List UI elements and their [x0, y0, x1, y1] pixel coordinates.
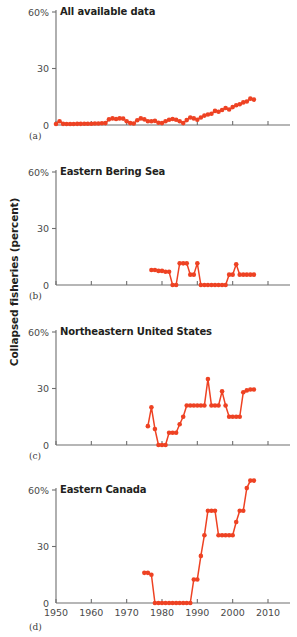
- data-point: [237, 414, 242, 419]
- panel-d: 03060%1950196019701980199020002010: [0, 478, 297, 637]
- data-point: [206, 377, 211, 382]
- y-tick-label: 0: [43, 280, 49, 291]
- data-point: [241, 508, 246, 513]
- data-point: [188, 601, 193, 606]
- data-point: [149, 405, 154, 410]
- figure-collapsed-fisheries: Collapsed fisheries (percent) 03060% 030…: [0, 0, 297, 637]
- data-point: [230, 272, 235, 277]
- series-line-c: [148, 379, 254, 445]
- panel-a: 03060%: [0, 0, 297, 150]
- data-point: [192, 272, 197, 277]
- panel-c: 03060%: [0, 320, 297, 470]
- y-tick-label: 0: [43, 440, 49, 451]
- data-point: [181, 121, 186, 126]
- data-point: [252, 97, 257, 102]
- y-tick-label: 0: [43, 120, 49, 131]
- data-point: [103, 121, 108, 126]
- chart-c: 03060%: [0, 320, 297, 470]
- y-tick-label: 30: [37, 63, 49, 74]
- panel-c-label: (c): [29, 451, 41, 461]
- panel-d-label: (d): [29, 622, 42, 632]
- x-tick-label: 1980: [150, 607, 174, 618]
- data-point: [195, 261, 200, 266]
- y-tick-label: 30: [37, 541, 49, 552]
- chart-b: 03060%: [0, 160, 297, 310]
- panel-b-label: (b): [29, 291, 42, 301]
- data-point: [181, 414, 186, 419]
- y-tick-label: 60%: [28, 167, 49, 178]
- series-line-d: [144, 481, 254, 603]
- data-point: [234, 520, 239, 525]
- data-point: [230, 533, 235, 538]
- data-point: [202, 403, 207, 408]
- data-point: [252, 272, 257, 277]
- data-point: [252, 478, 257, 483]
- panel-b: 03060%: [0, 160, 297, 310]
- x-tick-label: 1990: [185, 607, 209, 618]
- data-point: [216, 403, 221, 408]
- data-point: [149, 572, 154, 577]
- panel-d-title: Eastern Canada: [60, 484, 146, 495]
- x-tick-label: 1970: [115, 607, 139, 618]
- data-point: [195, 577, 200, 582]
- panel-a-label: (a): [29, 131, 41, 141]
- x-tick-label: 1960: [79, 607, 103, 618]
- y-tick-label: 60%: [28, 7, 49, 18]
- data-point: [213, 508, 218, 513]
- data-point: [163, 443, 168, 448]
- x-tick-label: 1950: [44, 607, 68, 618]
- y-tick-label: 30: [37, 383, 49, 394]
- data-point: [153, 427, 158, 432]
- data-point: [245, 486, 250, 491]
- x-tick-label: 2000: [221, 607, 245, 618]
- x-tick-label: 2010: [256, 607, 280, 618]
- data-point: [177, 422, 182, 427]
- data-point: [174, 430, 179, 435]
- data-point: [220, 389, 225, 394]
- y-tick-label: 60%: [28, 485, 49, 496]
- panel-a-title: All available data: [60, 6, 155, 17]
- data-point: [174, 283, 179, 288]
- y-tick-label: 30: [37, 223, 49, 234]
- chart-d: 03060%1950196019701980199020002010: [0, 478, 297, 637]
- data-point: [234, 262, 239, 267]
- data-point: [223, 283, 228, 288]
- data-point: [223, 403, 228, 408]
- panel-b-title: Eastern Bering Sea: [60, 166, 165, 177]
- data-point: [131, 121, 136, 126]
- data-point: [146, 424, 151, 429]
- data-point: [199, 554, 204, 559]
- data-point: [167, 270, 172, 275]
- data-point: [252, 387, 257, 392]
- panel-c-title: Northeastern United States: [60, 326, 212, 337]
- chart-a: 03060%: [0, 0, 297, 150]
- data-point: [202, 533, 207, 538]
- y-tick-label: 60%: [28, 327, 49, 338]
- data-point: [184, 261, 189, 266]
